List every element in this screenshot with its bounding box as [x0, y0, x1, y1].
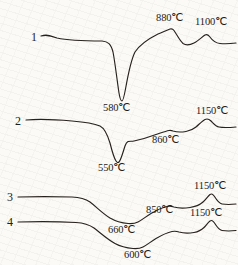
annotation-600c-curve4: 600℃	[124, 250, 151, 261]
curve-label-1: 1	[31, 31, 37, 43]
annotation-1100c-curve1: 1100℃	[195, 17, 227, 28]
curve-label-4: 4	[7, 216, 13, 228]
curve-label-2: 2	[15, 115, 21, 127]
dta-curve-1	[41, 29, 236, 101]
annotation-580c-curve1: 580℃	[103, 103, 130, 114]
dta-curve-2	[26, 119, 236, 163]
annotation-550c-curve2: 550℃	[98, 163, 125, 174]
annotation-1150c-curve4: 1150℃	[190, 208, 222, 219]
curve-label-3: 3	[7, 191, 13, 203]
annotation-1150c-curve2: 1150℃	[196, 106, 228, 117]
annotation-1150c-curve3: 1150℃	[194, 181, 226, 192]
annotation-860c-curve2: 860℃	[152, 135, 179, 146]
dta-chart: 1 2 3 4 880℃ 1100℃ 580℃ 1150℃ 860℃ 550℃ …	[0, 0, 238, 265]
annotation-850c-curve3: 850℃	[146, 205, 173, 216]
annotation-880c-curve1: 880℃	[156, 13, 183, 24]
annotation-660c-curve3: 660℃	[108, 225, 135, 236]
